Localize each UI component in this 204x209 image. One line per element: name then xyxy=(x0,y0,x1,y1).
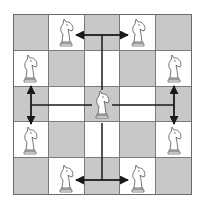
square-r0c4 xyxy=(156,15,191,51)
square-r3c3 xyxy=(120,122,155,158)
square-r0c1 xyxy=(49,15,84,51)
chess-board xyxy=(13,14,192,195)
square-r1c2 xyxy=(85,51,120,87)
square-r2c1 xyxy=(49,87,84,123)
square-r2c4 xyxy=(156,87,191,123)
square-r0c2 xyxy=(85,15,120,51)
square-r4c2 xyxy=(85,158,120,194)
square-r2c0 xyxy=(14,87,49,123)
square-r1c1 xyxy=(49,51,84,87)
square-r3c0 xyxy=(14,122,49,158)
square-r4c1 xyxy=(49,158,84,194)
square-r3c1 xyxy=(49,122,84,158)
square-r0c0 xyxy=(14,15,49,51)
square-r4c4 xyxy=(156,158,191,194)
square-r1c4 xyxy=(156,51,191,87)
square-r3c4 xyxy=(156,122,191,158)
square-r1c0 xyxy=(14,51,49,87)
square-r3c2 xyxy=(85,122,120,158)
square-r4c0 xyxy=(14,158,49,194)
square-r0c3 xyxy=(120,15,155,51)
square-r1c3 xyxy=(120,51,155,87)
square-r2c2 xyxy=(85,87,120,123)
square-r2c3 xyxy=(120,87,155,123)
square-r4c3 xyxy=(120,158,155,194)
